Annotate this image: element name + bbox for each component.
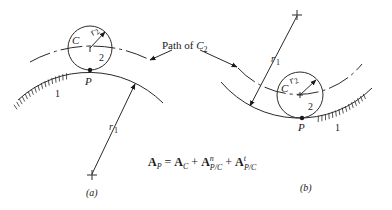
- label-body-2-b: 2: [308, 101, 313, 112]
- hatch-mark: [14, 105, 17, 110]
- caption-a: (a): [86, 187, 98, 199]
- label-body-1-b: 1: [335, 122, 340, 133]
- body-1-surface-b: [221, 82, 372, 118]
- center-cross-b: [292, 10, 302, 20]
- svg-text:1: 1: [114, 126, 118, 135]
- label-p-a: P: [84, 75, 92, 87]
- label-c-a: C: [72, 34, 80, 46]
- path-of-c2-callout: Path of C2: [150, 39, 237, 67]
- center-cross-a: [87, 170, 97, 180]
- contact-point-p-a: [88, 68, 92, 72]
- label-p-b: P: [297, 121, 305, 133]
- label-r1-b: r 1: [271, 53, 280, 67]
- hatch-mark: [35, 87, 37, 93]
- hatch-mark: [31, 89, 33, 94]
- hatch-mark: [38, 85, 40, 91]
- svg-text:r: r: [109, 121, 113, 132]
- caption-b: (b): [300, 182, 312, 194]
- hatch-mark: [17, 102, 20, 107]
- label-body-1-a: 1: [55, 88, 60, 99]
- panel-a: C r 2 2 P 1 r 1 (a): [14, 24, 163, 199]
- acceleration-equation: AP=AC+AnP/C+AtP/C: [148, 154, 257, 172]
- hatch-mark: [332, 112, 333, 118]
- hatch-mark: [19, 99, 22, 104]
- hatch-mark: [25, 94, 27, 99]
- svg-text:1: 1: [276, 58, 280, 67]
- label-body-2-a: 2: [99, 52, 104, 63]
- leader-to-path-b: [200, 50, 237, 67]
- label-r2-b: r 2: [287, 72, 300, 87]
- label-c-b: C: [281, 82, 289, 94]
- kinematics-diagram: C r 2 2 P 1 r 1 (a) Path of C2: [0, 0, 392, 210]
- leader-to-path-a: [150, 50, 172, 60]
- contact-point-p-b: [300, 116, 304, 120]
- path-of-c2-b: [238, 64, 362, 94]
- svg-text:r: r: [271, 53, 275, 64]
- hatch-mark: [22, 97, 24, 102]
- body-1-hatching-b: [318, 94, 365, 122]
- hatch-mark: [28, 92, 30, 97]
